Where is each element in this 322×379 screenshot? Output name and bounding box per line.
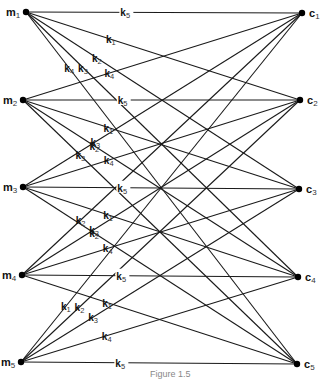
edge-label-m3-c4: k1 xyxy=(103,210,113,223)
edge-label-subscript: 3 xyxy=(84,67,88,76)
edge-label-text: k1 xyxy=(104,123,114,136)
edge-label-m1-c5: k4 xyxy=(64,63,74,76)
edge-label-subscript: 3 xyxy=(81,154,85,163)
node-label-subscript: 5 xyxy=(11,361,16,370)
edge-label-m5-c1: k1 xyxy=(61,301,71,314)
edge-label-subscript: 1 xyxy=(109,214,113,223)
edge-label-m1-c3: k2 xyxy=(92,53,102,66)
node-label-m2: m2 xyxy=(3,94,18,108)
edge-label-text: k2 xyxy=(92,53,102,66)
node-label-subscript: 5 xyxy=(310,363,315,372)
edge-label-text: k4 xyxy=(64,63,74,76)
edge-label-m1-c1: k5 xyxy=(119,5,133,20)
node-m4 xyxy=(19,272,25,278)
node-c4 xyxy=(295,274,301,280)
edge-m4-c3 xyxy=(22,189,299,275)
node-m5 xyxy=(18,359,24,365)
edge-m5-c4 xyxy=(21,277,298,362)
edge-m4-c1 xyxy=(22,13,302,275)
edge-label-subscript: 5 xyxy=(126,11,130,20)
edge-label-subscript: 4 xyxy=(110,72,114,81)
edge-label-subscript: 1 xyxy=(108,302,112,311)
edge-label-text: k3 xyxy=(88,312,98,325)
node-label-m1: m1 xyxy=(6,6,21,20)
edge-label-text: k1 xyxy=(61,301,71,314)
node-label-c5: c5 xyxy=(304,358,315,372)
figure-caption: Figure 1.5 xyxy=(150,369,191,379)
edge-label-text: k4 xyxy=(102,331,112,344)
node-label-subscript: 1 xyxy=(16,11,21,20)
edge-label-text: k3 xyxy=(76,150,86,163)
node-label-subscript: 3 xyxy=(312,188,317,197)
edge-label-subscript: 1 xyxy=(112,38,116,47)
edge-label-subscript: 4 xyxy=(70,67,74,76)
edge-label-subscript: 3 xyxy=(96,141,100,150)
edge-label-m5-c5: k5 xyxy=(114,356,128,371)
edge-label-m4-c4: k5 xyxy=(115,269,129,284)
edge-label-m4-c3: k4 xyxy=(103,243,113,256)
node-label-m5: m5 xyxy=(1,356,16,370)
edge-label-m5-c3: k3 xyxy=(88,312,98,325)
edge-label-text: k1 xyxy=(106,34,116,47)
node-label-subscript: 2 xyxy=(13,99,18,108)
edge-label-m1-c4: k3 xyxy=(78,63,88,76)
edge-label-subscript: 5 xyxy=(123,187,127,196)
node-label-subscript: 2 xyxy=(313,99,318,108)
edge-label-text: k4 xyxy=(103,243,113,256)
edge-label-m4-c5: k1 xyxy=(102,298,112,311)
edge-label-subscript: 3 xyxy=(94,316,98,325)
edge-label-subscript: 2 xyxy=(80,306,84,315)
node-c1 xyxy=(299,10,305,16)
edge-label-m2-c1: k4 xyxy=(104,68,114,81)
edge-label-m2-c2: k5 xyxy=(117,93,131,108)
edge-m5-c5 xyxy=(21,362,297,364)
node-c5 xyxy=(294,361,300,367)
edge-label-subscript: 2 xyxy=(81,219,85,228)
edge-label-subscript: 1 xyxy=(109,127,113,136)
edge-label-m2-c3: k1 xyxy=(104,123,114,136)
node-label-subscript: 4 xyxy=(12,274,17,283)
node-m1 xyxy=(23,9,29,15)
edge-label-text: k4 xyxy=(104,68,114,81)
edge-label-subscript: 3 xyxy=(95,229,99,238)
node-c2 xyxy=(297,97,303,103)
edge-m5-c2 xyxy=(21,100,300,362)
edge-label-subscript: 5 xyxy=(123,99,127,108)
edge-m1-c1 xyxy=(26,12,302,13)
edge-label-subscript: 5 xyxy=(121,362,125,371)
edge-label-m1-c2: k1 xyxy=(106,34,116,47)
edge-label-m5-c4: k4 xyxy=(102,331,112,344)
node-label-subscript: 1 xyxy=(315,12,320,21)
node-label-m4: m4 xyxy=(2,269,17,283)
edge-label-subscript: 4 xyxy=(107,335,111,344)
node-label-subscript: 4 xyxy=(311,276,316,285)
edge-label-text: k3 xyxy=(78,63,88,76)
node-c3 xyxy=(296,186,302,192)
edge-label-subscript: 4 xyxy=(108,247,112,256)
node-label-c2: c2 xyxy=(307,94,318,108)
node-label-c3: c3 xyxy=(306,183,317,197)
edge-label-subscript: 5 xyxy=(122,275,126,284)
node-label-subscript: 3 xyxy=(13,186,18,195)
bipartite-graph: k5k1k2k3k4k4k5k1k2k3k3k4k5k1k2k2k3k4k5k1… xyxy=(0,0,322,379)
edge-label-text: k1 xyxy=(103,210,113,223)
node-label-c1: c1 xyxy=(309,7,320,21)
node-m2 xyxy=(20,97,26,103)
node-label-m3: m3 xyxy=(3,181,18,195)
node-label-c4: c4 xyxy=(305,271,316,285)
edge-label-subscript: 1 xyxy=(67,305,71,314)
edge-label-subscript: 2 xyxy=(98,57,102,66)
edge-label-m2-c5: k3 xyxy=(76,150,86,163)
edge-label-text: k1 xyxy=(102,298,112,311)
edge-label-m3-c3: k5 xyxy=(116,181,130,196)
node-m3 xyxy=(20,184,26,190)
edge-label-subscript: 4 xyxy=(109,159,113,168)
